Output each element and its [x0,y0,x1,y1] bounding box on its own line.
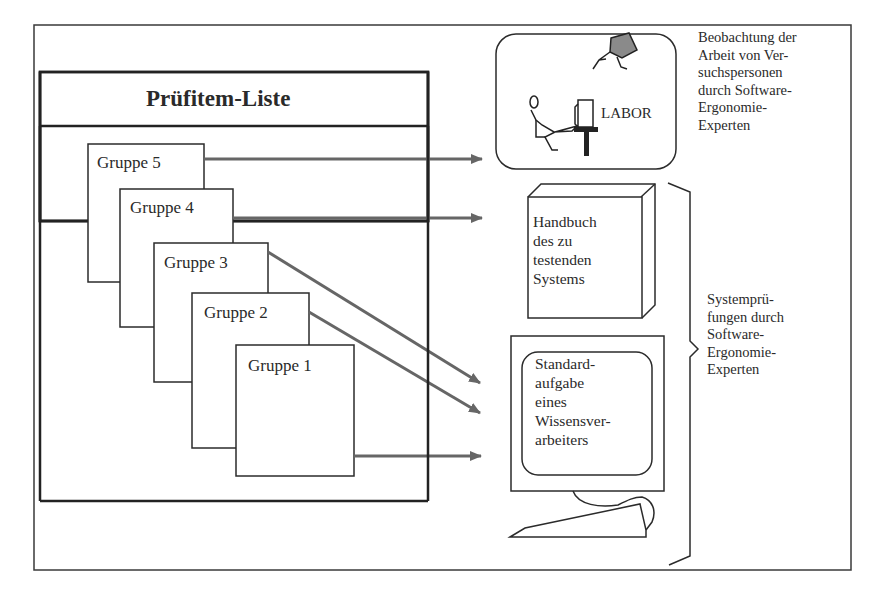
bracket-description: Systemprü- fungen durch Software- Ergono… [707,291,784,379]
group-label-5: Gruppe 5 [97,153,161,173]
monitor-text: Standard- aufgabe eines Wissensver- arbe… [535,354,611,449]
manual-text-line: des zu [533,231,597,250]
lab-description-line: suchspersonen [698,64,797,82]
manual-text-line: testenden [533,250,597,269]
manual-text-line: Handbuch [533,212,597,231]
lab-description-line: durch Software- [698,82,797,100]
lab-label: LABOR [601,105,652,122]
lab-description-line: Beobachtung der [698,29,797,47]
lab-description: Beobachtung der Arbeit von Ver- suchsper… [698,29,797,134]
lab-description-line: Experten [698,117,797,135]
group-label-4: Gruppe 4 [130,198,194,218]
group-label-2: Gruppe 2 [204,303,268,323]
lab-description-line: Arbeit von Ver- [698,47,797,65]
monitor-text-line: eines [535,392,611,411]
lab-description-line: Ergonomie- [698,99,797,117]
bracket-description-line: Software- [707,326,784,344]
bracket-description-line: fungen durch [707,309,784,327]
monitor-text-line: Standard- [535,354,611,373]
manual-text-line: Systems [533,269,597,288]
bracket-description-line: Ergonomie- [707,344,784,362]
bracket-description-line: Systemprü- [707,291,784,309]
manual-text: Handbuch des zu testenden Systems [533,212,597,288]
group-label-3: Gruppe 3 [164,253,228,273]
monitor-text-line: aufgabe [535,373,611,392]
monitor-text-line: Wissensver- [535,411,611,430]
bracket-description-line: Experten [707,361,784,379]
bracket-icon [668,183,698,565]
group-label-1: Gruppe 1 [248,356,312,376]
monitor-text-line: arbeiters [535,430,611,449]
checklist-title: Prüfitem-Liste [146,86,290,112]
